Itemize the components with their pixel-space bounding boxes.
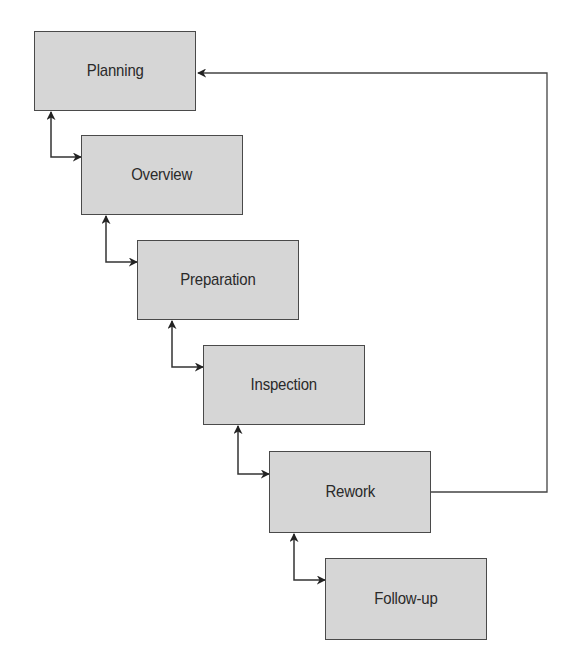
node-label: Overview [132, 165, 193, 185]
node-label: Follow-up [374, 589, 437, 609]
connector-rework-followup [294, 534, 325, 580]
connector-overview-preparation [106, 216, 137, 262]
node-preparation: Preparation [137, 240, 299, 320]
connector-preparation-inspection [172, 321, 203, 367]
connector-planning-overview [51, 112, 81, 157]
node-rework: Rework [269, 451, 431, 533]
node-inspection: Inspection [203, 345, 365, 425]
node-follow-up: Follow-up [325, 558, 487, 640]
node-planning: Planning [34, 31, 196, 111]
node-overview: Overview [81, 135, 243, 215]
node-label: Rework [325, 482, 375, 502]
node-label: Preparation [180, 270, 255, 290]
node-label: Planning [87, 61, 144, 81]
inspection-process-diagram: Planning Overview Preparation Inspection… [0, 0, 579, 666]
node-label: Inspection [251, 375, 317, 395]
connector-inspection-rework [238, 426, 269, 474]
